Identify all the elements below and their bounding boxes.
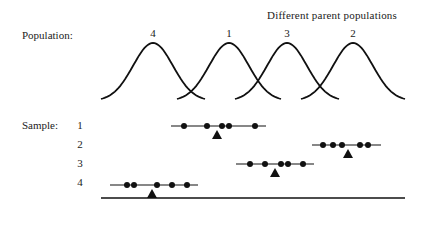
population-curve-1 [177,43,281,99]
sampling-distribution-diagram: Different parent populations Population:… [0,0,434,242]
sample-point [357,142,363,148]
sample-point [154,182,160,188]
sample-point [184,182,190,188]
sample-mean-triangle-icon [212,130,222,139]
sample-point [365,142,371,148]
sample-point [320,142,326,148]
sample-point [278,161,284,167]
sample-mean-triangle-icon [343,149,353,158]
sample-row-1 [171,123,266,139]
population-curve-2 [301,43,405,99]
sample-point [285,161,291,167]
sample-point [339,142,345,148]
sample-row-4 [110,182,198,198]
sample-point [219,123,225,129]
sample-mean-triangle-icon [147,189,157,198]
sample-point [181,123,187,129]
sample-point [124,182,130,188]
sample-point [262,161,268,167]
sample-row-2 [312,142,381,158]
sample-point [247,161,253,167]
sample-point [330,142,336,148]
population-curve-3 [235,43,339,99]
sample-rows [110,123,381,198]
sample-point [226,123,232,129]
sample-row-3 [236,161,314,177]
diagram-graphics [0,0,434,242]
sample-point [131,182,137,188]
sample-point [252,123,258,129]
population-curve-4 [101,43,205,99]
sample-point [300,161,306,167]
sample-point [204,123,210,129]
population-curves [101,43,405,99]
sample-mean-triangle-icon [270,168,280,177]
sample-point [169,182,175,188]
